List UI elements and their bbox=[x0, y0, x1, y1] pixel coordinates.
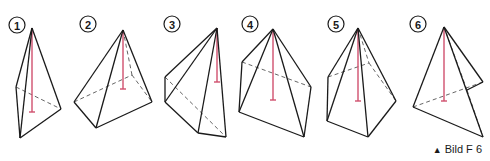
visible-edge bbox=[444, 27, 483, 137]
hidden-edge bbox=[123, 30, 132, 75]
pyramid-figure-2: 2 bbox=[74, 16, 152, 128]
visible-edge bbox=[165, 28, 217, 102]
visible-edge bbox=[413, 27, 444, 107]
figure-number-badge: 6 bbox=[410, 16, 426, 32]
visible-edge bbox=[239, 112, 304, 137]
hidden-edge bbox=[413, 82, 483, 107]
visible-edge bbox=[327, 28, 358, 121]
visible-edge bbox=[198, 133, 226, 137]
visible-edge bbox=[96, 30, 123, 128]
triangle-marker-icon: ▲ bbox=[433, 145, 442, 155]
visible-edge bbox=[413, 107, 483, 137]
visible-edge bbox=[123, 30, 152, 102]
hidden-edge bbox=[242, 62, 311, 87]
visible-edge bbox=[327, 77, 328, 121]
visible-edge bbox=[273, 29, 304, 137]
figure-number: 5 bbox=[333, 19, 339, 31]
hidden-edge bbox=[369, 63, 396, 101]
caption-text: Bild F 6 bbox=[445, 143, 482, 155]
visible-edge bbox=[20, 28, 32, 138]
figure-number-badge: 3 bbox=[164, 16, 180, 32]
visible-edge bbox=[242, 29, 273, 62]
pyramid-figure-6: 6 bbox=[410, 16, 483, 137]
visible-edge bbox=[165, 102, 198, 133]
pyramid-figure-1: 1 bbox=[9, 17, 61, 138]
visible-edge bbox=[74, 102, 96, 128]
figure-number: 3 bbox=[169, 19, 175, 31]
visible-edge bbox=[328, 28, 358, 77]
visible-edge bbox=[368, 101, 396, 137]
figure-number-badge: 1 bbox=[9, 17, 25, 33]
visible-edge bbox=[16, 87, 20, 138]
hidden-edge bbox=[165, 77, 226, 137]
hidden-edge bbox=[132, 75, 152, 102]
figure-number: 2 bbox=[85, 19, 91, 31]
pyramid-figure-3: 3 bbox=[164, 16, 226, 137]
figure-number-badge: 4 bbox=[242, 16, 258, 32]
visible-edge bbox=[327, 121, 368, 137]
visible-edge bbox=[20, 109, 61, 138]
visible-edge bbox=[273, 29, 311, 87]
figure-number: 6 bbox=[415, 19, 421, 31]
pyramid-figure-5: 5 bbox=[327, 16, 396, 137]
visible-edge bbox=[74, 30, 123, 102]
visible-edge bbox=[304, 87, 311, 137]
visible-edge bbox=[96, 102, 152, 128]
visible-edge bbox=[16, 28, 32, 87]
figure-number: 1 bbox=[14, 20, 20, 32]
figure-number: 4 bbox=[247, 19, 254, 31]
pyramid-figure-canvas: 123456 bbox=[0, 0, 490, 161]
figure-number-badge: 2 bbox=[80, 16, 96, 32]
figure-number-badge: 5 bbox=[328, 16, 344, 32]
visible-edge bbox=[239, 29, 273, 112]
visible-edge bbox=[467, 82, 483, 90]
pyramid-figure-4: 4 bbox=[239, 16, 311, 137]
figure-caption: ▲Bild F 6 bbox=[433, 143, 482, 155]
visible-edge bbox=[444, 27, 483, 82]
